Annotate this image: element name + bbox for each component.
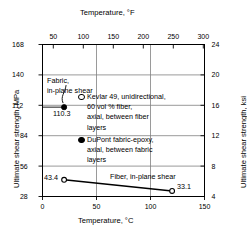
legend-entry-line: axial, between fabric <box>87 145 154 155</box>
data-label-fiber-left: 43.4 <box>44 174 58 181</box>
data-label-fiber-right: 33.1 <box>177 183 191 190</box>
legend-entry-line: 60 vol % fiber, <box>87 102 166 112</box>
legend-entry-line: layers <box>87 155 154 165</box>
fabric-annotation-line: in-plane shear <box>47 86 93 96</box>
legend-marker-filled-circle <box>78 137 85 144</box>
data-point-open <box>62 177 67 182</box>
fabric-annotation-line: Fabric, <box>47 76 93 86</box>
data-point-open <box>170 189 175 194</box>
legend-entry: DuPont fabric-epoxy,axial, between fabri… <box>87 135 154 166</box>
legend-entry-line: Kevlar 49, unidirectional, <box>87 92 166 102</box>
chart-figure: Temperature, °F Temperature, °C Ultimate… <box>0 0 247 235</box>
fabric-annotation: Fabric,in-plane shear <box>47 76 93 96</box>
data-label-fabric: 110.3 <box>53 110 70 117</box>
fiber-annotation-line: Fiber, in-plane shear <box>110 172 176 182</box>
legend-entry-line: layers <box>87 123 166 133</box>
legend-entry-line: DuPont fabric-epoxy, <box>87 135 154 145</box>
legend-marker-open-circle <box>78 94 85 101</box>
fiber-annotation: Fiber, in-plane shear <box>110 172 176 182</box>
legend-entry: Kevlar 49, unidirectional,60 vol % fiber… <box>87 92 166 133</box>
legend-entry-line: axial, between fiber <box>87 112 166 122</box>
